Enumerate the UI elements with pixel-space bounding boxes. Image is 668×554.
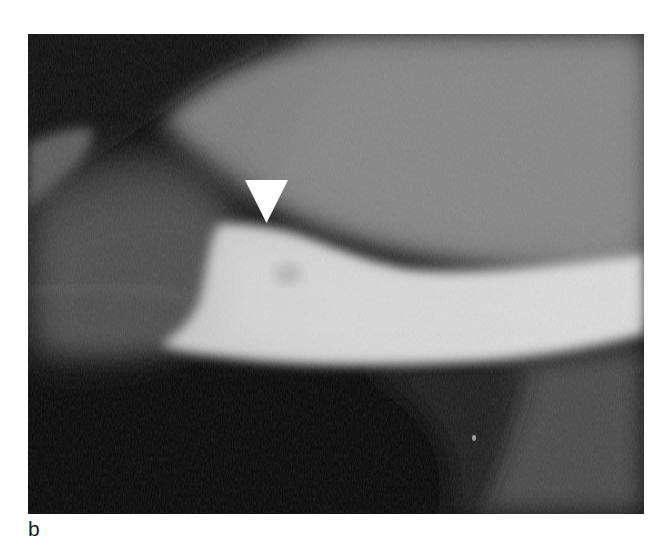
panel-label: b: [28, 518, 40, 539]
radiograph-image: [28, 34, 644, 514]
radiograph-graphic: [28, 34, 644, 514]
